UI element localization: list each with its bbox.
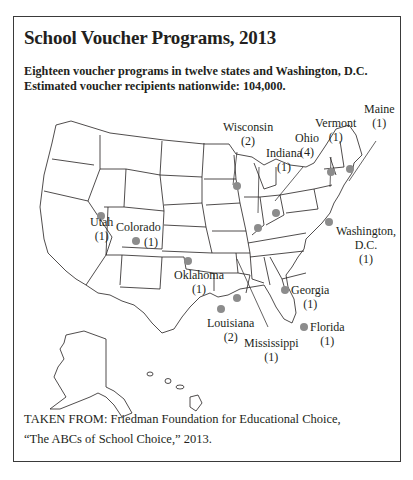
label-wisconsin: Wisconsin(2) [223, 120, 273, 148]
marker-florida [300, 323, 308, 331]
label-mississippi: Mississippi(1) [244, 336, 299, 364]
label-colorado: Colorado [116, 220, 161, 234]
label-vermont: Vermont(1) [315, 116, 356, 144]
marker-georgia [281, 286, 289, 294]
label-colorado-count: (1) [144, 235, 158, 249]
marker-vermont [327, 168, 335, 176]
figure-frame: School Voucher Programs, 2013 Eighteen v… [13, 16, 401, 462]
marker-mississippi [233, 294, 241, 302]
label-utah: Utah(1) [90, 215, 113, 243]
label-washington-dc: Washington,D.C.(1) [336, 224, 396, 266]
marker-colorado [132, 237, 140, 245]
marker-louisiana [217, 305, 225, 313]
label-oklahoma: Oklahoma(1) [174, 268, 224, 296]
source-line-2: “The ABCs of School Choice,” 2013. [24, 429, 341, 449]
marker-indiana [254, 224, 262, 232]
marker-ohio [272, 209, 280, 217]
label-florida: Florida(1) [310, 320, 345, 348]
marker-maine [346, 165, 354, 173]
marker-oklahoma [184, 257, 192, 265]
source-citation: TAKEN FROM: Friedman Foundation for Educ… [24, 409, 341, 449]
source-line-1: TAKEN FROM: Friedman Foundation for Educ… [24, 409, 341, 429]
marker-washington-dc [325, 218, 333, 226]
label-georgia: Georgia(1) [291, 283, 329, 311]
label-maine: Maine(1) [364, 102, 395, 130]
marker-wisconsin [233, 182, 241, 190]
